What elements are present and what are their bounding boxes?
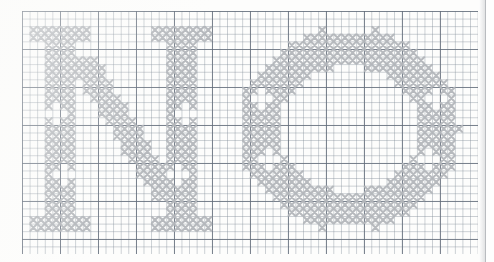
stitch-x bbox=[388, 50, 394, 56]
stitch-x bbox=[190, 149, 196, 155]
stitch-x bbox=[61, 126, 67, 132]
stitch-x bbox=[296, 209, 302, 215]
stitch-x bbox=[61, 103, 67, 109]
stitch-x bbox=[304, 73, 310, 79]
stitch-x bbox=[53, 126, 59, 132]
stitch-x bbox=[410, 171, 416, 177]
stitch-x bbox=[281, 95, 287, 101]
stitch-x bbox=[327, 209, 333, 215]
stitch-x bbox=[274, 111, 280, 117]
stitch-x bbox=[426, 187, 432, 193]
stitch-x bbox=[175, 156, 181, 162]
stitch-x bbox=[433, 111, 439, 117]
stitch-x bbox=[99, 73, 105, 79]
stitch-x bbox=[296, 50, 302, 56]
stitch-x bbox=[266, 118, 272, 124]
stitch-x bbox=[76, 35, 82, 41]
stitch-x bbox=[114, 111, 120, 117]
stitch-x bbox=[68, 187, 74, 193]
stitch-x bbox=[418, 164, 424, 170]
stitch-x bbox=[274, 118, 280, 124]
stitch-x bbox=[296, 171, 302, 177]
stitch-x bbox=[160, 194, 166, 200]
stitch-x bbox=[167, 209, 173, 215]
stitch-x bbox=[243, 111, 249, 117]
stitch-x bbox=[68, 149, 74, 155]
stitch-x bbox=[76, 73, 82, 79]
stitch-x bbox=[190, 164, 196, 170]
stitch-x bbox=[274, 57, 280, 63]
stitch-x bbox=[251, 141, 257, 147]
stitch-x bbox=[296, 57, 302, 63]
stitch-x bbox=[152, 217, 158, 223]
stitch-x bbox=[289, 80, 295, 86]
stitch-x bbox=[372, 202, 378, 208]
stitch-x bbox=[243, 88, 249, 94]
stitch-x bbox=[395, 209, 401, 215]
stitch-x bbox=[160, 164, 166, 170]
stitch-x bbox=[68, 57, 74, 63]
stitch-x bbox=[61, 141, 67, 147]
stitch-x bbox=[99, 88, 105, 94]
stitch-x bbox=[167, 95, 173, 101]
stitch-x bbox=[182, 217, 188, 223]
stitch-x bbox=[266, 73, 272, 79]
stitch-x bbox=[68, 118, 74, 124]
stitch-x bbox=[441, 133, 447, 139]
stitch-x bbox=[327, 65, 333, 71]
stitch-x bbox=[122, 133, 128, 139]
stitch-x bbox=[182, 187, 188, 193]
stitch-x bbox=[395, 202, 401, 208]
stitch-x bbox=[68, 126, 74, 132]
stitch-x bbox=[342, 57, 348, 63]
stitch-x bbox=[182, 95, 188, 101]
stitch-x bbox=[30, 217, 36, 223]
stitch-x bbox=[388, 35, 394, 41]
stitch-x bbox=[190, 179, 196, 185]
stitch-x bbox=[167, 133, 173, 139]
stitch-x bbox=[243, 126, 249, 132]
stitch-x bbox=[342, 209, 348, 215]
stitch-x bbox=[46, 103, 52, 109]
stitch-x bbox=[46, 164, 52, 170]
stitch-x bbox=[319, 27, 325, 33]
stitch-x bbox=[403, 187, 409, 193]
stitch-x bbox=[365, 42, 371, 48]
stitch-x bbox=[304, 50, 310, 56]
stitch-x bbox=[258, 164, 264, 170]
stitch-x bbox=[395, 57, 401, 63]
stitch-x bbox=[84, 217, 90, 223]
stitch-x bbox=[190, 171, 196, 177]
stitch-x bbox=[372, 42, 378, 48]
stitch-x bbox=[68, 95, 74, 101]
stitch-x bbox=[448, 95, 454, 101]
stitch-x bbox=[167, 88, 173, 94]
stitch-x bbox=[365, 217, 371, 223]
stitch-x bbox=[304, 42, 310, 48]
stitch-x bbox=[296, 179, 302, 185]
stitch-x bbox=[68, 209, 74, 215]
stitch-x bbox=[46, 57, 52, 63]
stitch-x bbox=[144, 156, 150, 162]
stitch-x bbox=[312, 194, 318, 200]
stitch-x bbox=[106, 118, 112, 124]
stitch-x bbox=[418, 103, 424, 109]
stitch-x bbox=[304, 194, 310, 200]
stitch-x bbox=[61, 27, 67, 33]
stitch-x bbox=[68, 80, 74, 86]
stitch-x bbox=[243, 141, 249, 147]
stitch-x bbox=[46, 42, 52, 48]
stitch-x bbox=[418, 73, 424, 79]
stitch-x bbox=[418, 133, 424, 139]
stitch-x bbox=[312, 209, 318, 215]
stitch-x bbox=[46, 156, 52, 162]
stitch-x bbox=[403, 42, 409, 48]
stitch-x bbox=[84, 73, 90, 79]
stitch-x bbox=[426, 80, 432, 86]
stitch-x bbox=[182, 80, 188, 86]
stitch-x bbox=[137, 149, 143, 155]
stitch-x bbox=[160, 179, 166, 185]
stitch-x bbox=[160, 171, 166, 177]
stitch-x bbox=[426, 88, 432, 94]
stitch-x bbox=[289, 88, 295, 94]
